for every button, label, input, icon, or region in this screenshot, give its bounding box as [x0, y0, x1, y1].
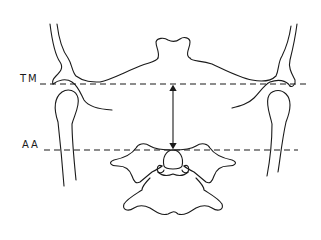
left-condyle-ramus [55, 90, 78, 186]
right-condyle-ramus [267, 91, 290, 176]
aa-label: AA [22, 139, 40, 150]
cervical-vertebrae-outline [111, 144, 236, 215]
tm-label: TM [20, 73, 39, 84]
left-temporal-outline [50, 24, 158, 110]
diagram-canvas: TM AA [0, 0, 321, 240]
anatomy-drawing [0, 0, 321, 240]
right-temporal-outline [190, 24, 297, 108]
occipital-base-outline [156, 38, 190, 58]
